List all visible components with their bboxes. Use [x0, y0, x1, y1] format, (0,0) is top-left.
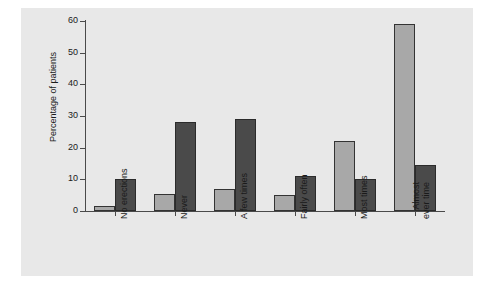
- y-tick-label: 20: [60, 143, 78, 152]
- y-axis-title: Percentage of patients: [48, 27, 58, 167]
- y-tick-mark: [80, 21, 85, 22]
- bar: [334, 141, 355, 211]
- y-tick-label: 40: [60, 79, 78, 88]
- x-tick-mark: [295, 212, 296, 216]
- x-category-label-text: Fairly often: [299, 174, 309, 219]
- y-tick-label: 10: [60, 174, 78, 183]
- x-category-label-text: Most times: [359, 175, 369, 219]
- bar: [94, 206, 115, 211]
- y-tick-mark: [80, 179, 85, 180]
- x-category-label-text: Never: [179, 195, 189, 219]
- y-tick-mark: [80, 53, 85, 54]
- x-axis-line: [85, 211, 445, 212]
- y-tick-mark: [80, 116, 85, 117]
- x-tick-mark: [355, 212, 356, 216]
- x-category-label-text: A few times: [239, 173, 249, 219]
- x-category-label-text: No erections: [119, 168, 129, 219]
- y-tick-label: 60: [60, 16, 78, 25]
- x-tick-mark: [115, 212, 116, 216]
- y-tick-mark: [80, 148, 85, 149]
- y-tick-mark: [80, 84, 85, 85]
- y-tick-label: 0: [60, 206, 78, 215]
- y-tick-label: 50: [60, 48, 78, 57]
- y-tick-label: 30: [60, 111, 78, 120]
- figure: Percentage of patients 0102030405060 No …: [0, 0, 486, 281]
- x-tick-mark: [235, 212, 236, 216]
- bar: [214, 189, 235, 211]
- y-axis-line: [85, 20, 86, 212]
- x-tick-mark: [175, 212, 176, 216]
- bar: [154, 194, 175, 211]
- bar: [274, 195, 295, 211]
- y-tick-mark: [80, 211, 85, 212]
- x-category-label-text: Almost ever time: [411, 182, 431, 219]
